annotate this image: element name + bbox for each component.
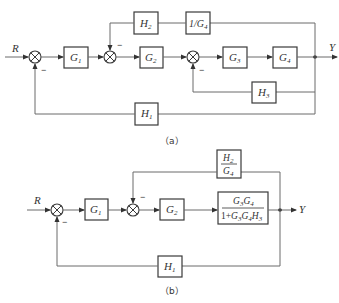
block-G4-a: G4	[273, 47, 297, 68]
diagram-b: R G1 G2 G3G4 1+G3G4H3	[27, 150, 307, 296]
block-invG4-a: 1/G4	[186, 12, 210, 34]
sign-sum2-b: −	[140, 192, 145, 202]
feedback-wire-h1-a	[158, 92, 315, 114]
output-label-b: Y	[299, 203, 307, 215]
block-G3-a: G3	[223, 47, 247, 68]
summing-junction-1-a	[29, 51, 41, 63]
input-label-a: R	[11, 42, 19, 54]
summing-junction-1-b	[51, 204, 63, 216]
block-G2-b: G2	[160, 199, 184, 220]
sign-sum1-a: −	[41, 65, 46, 75]
diagram-a: R G1 G2 G3	[5, 12, 337, 146]
block-closed-loop-b: G3G4 1+G3G4H3	[218, 192, 268, 224]
caption-b: （b）	[160, 286, 184, 296]
summing-junction-3-a	[187, 51, 199, 63]
block-G1-a: G1	[64, 47, 88, 68]
input-label-b: R	[33, 194, 41, 206]
block-G1-b: G1	[85, 199, 108, 220]
caption-a: （a）	[160, 136, 184, 146]
summing-junction-2-b	[127, 204, 139, 216]
summing-junction-2-a	[104, 51, 116, 63]
sign-sum2-a: −	[117, 40, 122, 50]
block-H2-over-G4-b: H2 G4	[217, 150, 241, 178]
output-label-a: Y	[329, 41, 337, 53]
block-H3-a: H3	[252, 82, 276, 103]
sign-sum1-b: −	[62, 217, 67, 227]
sign-sum3-a: −	[199, 65, 204, 75]
block-H1-a: H1	[135, 103, 158, 125]
block-H2-a: H2	[134, 12, 158, 34]
block-diagrams: R G1 G2 G3	[0, 0, 339, 303]
block-H1-b: H1	[158, 256, 182, 277]
block-G2-a: G2	[140, 47, 163, 68]
